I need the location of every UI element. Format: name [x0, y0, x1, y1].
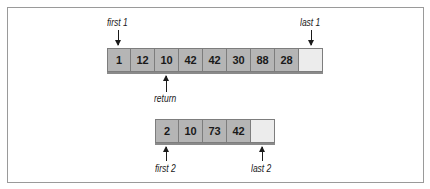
first-1-label: first 1: [107, 17, 128, 28]
range-1-cell: 88: [251, 48, 275, 72]
last-2-label: last 2: [251, 163, 271, 174]
range-1-cell: 28: [275, 48, 299, 72]
range-1-cell: 1: [107, 48, 131, 72]
range-2-cell: 42: [227, 119, 251, 143]
return-label: return: [154, 93, 176, 104]
first-2-arrow-icon: [166, 147, 167, 161]
range-2-end-cell: [251, 119, 275, 143]
last-1-arrow-icon: [311, 30, 312, 45]
range-2-cell: 10: [179, 119, 203, 143]
return-arrow-icon: [166, 76, 167, 92]
range-1-cell: 10: [155, 48, 179, 72]
range-2-array: 2 10 73 42: [155, 119, 275, 143]
range-1-cell: 42: [203, 48, 227, 72]
range-1-cell: 12: [131, 48, 155, 72]
range-1-array: 1 12 10 42 42 30 88 28: [107, 48, 323, 72]
first-2-label: first 2: [155, 163, 176, 174]
range-2-cell: 73: [203, 119, 227, 143]
range-1-cell: 30: [227, 48, 251, 72]
figure-frame: [7, 7, 424, 183]
last-2-arrow-icon: [262, 147, 263, 161]
range-1-cell: 42: [179, 48, 203, 72]
last-1-label: last 1: [300, 17, 320, 28]
range-2-cell: 2: [155, 119, 179, 143]
range-1-end-cell: [299, 48, 323, 72]
first-1-arrow-icon: [118, 30, 119, 45]
